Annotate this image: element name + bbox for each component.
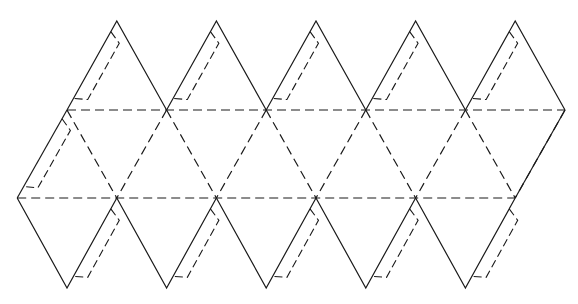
- bottom-triangle-edges: [416, 198, 516, 288]
- top-triangle-edges: [266, 21, 366, 110]
- bottom-triangle-edges: [117, 198, 217, 288]
- diagonal-fold-line: [366, 110, 416, 198]
- top-triangle-edges: [67, 21, 167, 110]
- top-glue-flap: [472, 32, 518, 100]
- diagonal-fold-line: [316, 110, 366, 198]
- bottom-glue-flap: [372, 209, 418, 278]
- bottom-triangle-edges: [17, 198, 117, 288]
- diagonal-fold-line: [416, 110, 466, 198]
- diagonal-fold-line: [67, 110, 117, 198]
- diagonal-fold-line: [266, 110, 316, 198]
- left-glue-flap: [24, 119, 71, 188]
- bottom-glue-flap: [173, 209, 219, 278]
- bottom-triangle-edges: [216, 198, 316, 288]
- top-glue-flap: [173, 32, 219, 100]
- bottom-triangle-edges: [316, 198, 416, 288]
- right-band-edge: [515, 110, 565, 198]
- top-triangle-edges: [465, 21, 565, 110]
- fold-lines: [17, 110, 565, 198]
- diagonal-fold-line: [117, 110, 167, 198]
- top-glue-flap: [273, 32, 319, 100]
- icosahedron-net-diagram: [0, 0, 578, 304]
- top-triangle-edges: [366, 21, 466, 110]
- left-band-edge: [17, 110, 67, 198]
- diagonal-fold-line: [216, 110, 266, 198]
- bottom-glue-flap: [73, 209, 119, 278]
- top-glue-flap: [73, 32, 119, 100]
- bottom-glue-flap: [472, 209, 518, 278]
- top-glue-flap: [372, 32, 418, 100]
- glue-flaps: [24, 32, 518, 278]
- bottom-glue-flap: [273, 209, 319, 278]
- diagonal-fold-line: [465, 110, 515, 198]
- diagonal-fold-line: [167, 110, 217, 198]
- top-triangle-edges: [167, 21, 267, 110]
